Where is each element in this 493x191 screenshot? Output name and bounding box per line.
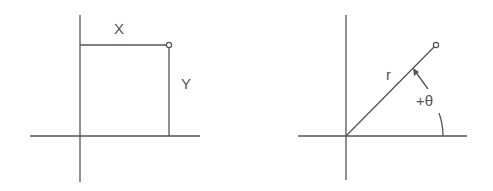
polar-diagram: r +θ — [298, 15, 467, 180]
cartesian-diagram: X Y — [30, 15, 200, 182]
angle-arc — [439, 113, 443, 136]
point-marker — [433, 42, 438, 47]
angle-leader-line — [415, 71, 428, 89]
r-label: r — [386, 66, 391, 83]
coordinate-diagrams: X Y r +θ — [0, 0, 493, 191]
point-marker — [166, 42, 171, 47]
theta-label: +θ — [416, 92, 433, 109]
y-label: Y — [181, 75, 191, 92]
x-label: X — [114, 20, 124, 37]
